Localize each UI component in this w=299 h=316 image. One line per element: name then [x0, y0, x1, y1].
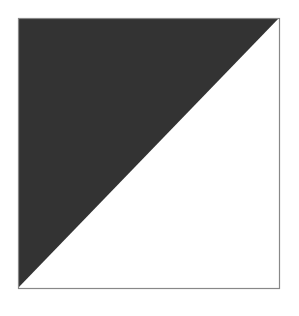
diagram-canvas	[0, 0, 299, 316]
